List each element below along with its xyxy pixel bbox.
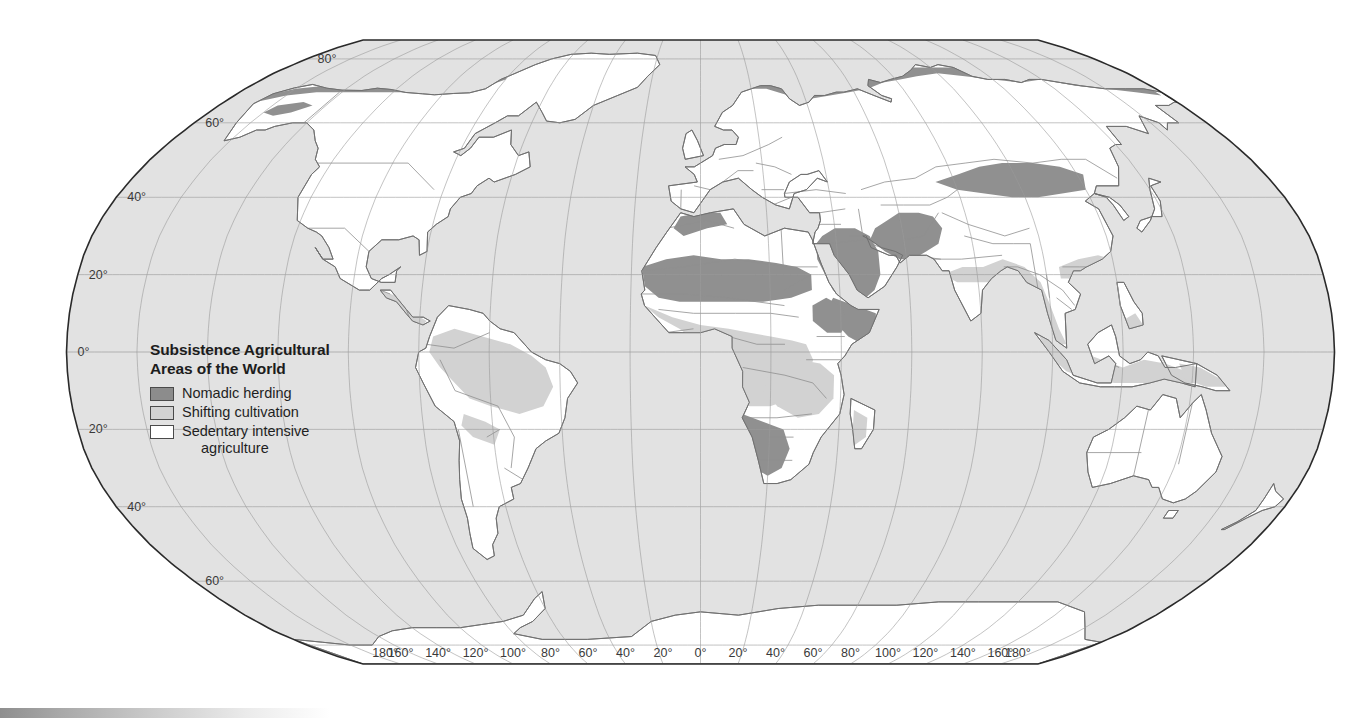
longitude-label: 60°: [579, 646, 598, 660]
longitude-labels: 180°160°140°120°100°80°60°40°20°0°20°40°…: [372, 646, 1031, 660]
legend-item-sedentary-intensive: Sedentary intensive: [150, 423, 385, 441]
longitude-label: 120°: [912, 646, 938, 660]
latitude-label: 40°: [127, 500, 146, 514]
page-edge-gradient-bar: [0, 708, 330, 718]
legend-swatch-shifting-cultivation: [150, 406, 174, 420]
longitude-label: 140°: [950, 646, 976, 660]
longitude-label: 180°: [1005, 646, 1031, 660]
latitude-label: 0°: [78, 345, 90, 359]
latitude-label: 40°: [127, 190, 146, 204]
map-legend: Subsistence Agricultural Areas of the Wo…: [150, 341, 385, 457]
legend-title: Subsistence Agricultural Areas of the Wo…: [150, 341, 385, 378]
legend-label-shifting-cultivation: Shifting cultivation: [182, 404, 299, 421]
longitude-label: 80°: [841, 646, 860, 660]
legend-label-sedentary-intensive: Sedentary intensive: [182, 423, 309, 440]
map-figure: 80°60°40°20°0°20°40°60° 180°160°140°120°…: [0, 0, 1365, 726]
legend-item-shifting-cultivation: Shifting cultivation: [150, 404, 385, 422]
legend-item-nomadic-herding: Nomadic herding: [150, 385, 385, 403]
legend-swatch-nomadic-herding: [150, 387, 174, 401]
longitude-label: 60°: [804, 646, 823, 660]
legend-swatch-sedentary-intensive: [150, 425, 174, 439]
longitude-label: 20°: [654, 646, 673, 660]
latitude-label: 20°: [89, 268, 108, 282]
legend-label-nomadic-herding: Nomadic herding: [182, 385, 292, 402]
legend-label-sedentary-intensive-cont: agriculture: [201, 440, 385, 457]
latitude-label: 60°: [205, 116, 224, 130]
longitude-label: 40°: [616, 646, 635, 660]
longitude-label: 20°: [729, 646, 748, 660]
longitude-label: 120°: [463, 646, 489, 660]
longitude-label: 100°: [500, 646, 526, 660]
latitude-label: 60°: [205, 574, 224, 588]
legend-title-line2: Areas of the World: [150, 360, 385, 379]
legend-title-line1: Subsistence Agricultural: [150, 341, 385, 360]
longitude-label: 100°: [875, 646, 901, 660]
latitude-label: 80°: [318, 52, 337, 66]
longitude-label: 40°: [766, 646, 785, 660]
longitude-label: 140°: [425, 646, 451, 660]
latitude-label: 20°: [89, 422, 108, 436]
longitude-label: 160°: [388, 646, 414, 660]
longitude-label: 80°: [541, 646, 560, 660]
longitude-label: 0°: [695, 646, 707, 660]
legend-items: Nomadic herding Shifting cultivation Sed…: [150, 385, 385, 457]
